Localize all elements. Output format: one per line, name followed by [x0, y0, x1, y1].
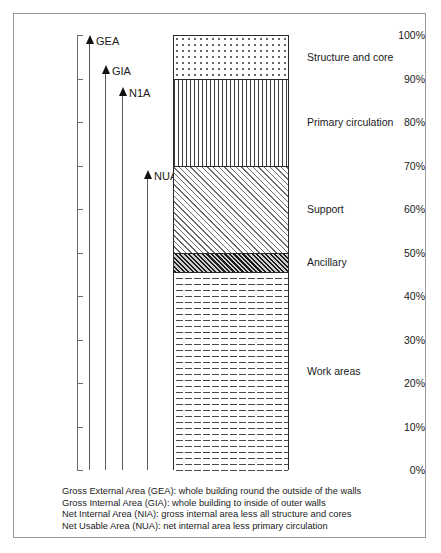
y-axis-tick: [77, 427, 83, 428]
y-axis-tick: [77, 470, 83, 471]
arrow-head-nua: [144, 170, 152, 179]
arrow-label-gia: GIA: [112, 66, 131, 77]
arrow-head-gia: [102, 65, 110, 74]
y-axis-tick-label: 70%: [369, 161, 425, 172]
y-axis-tick: [77, 253, 83, 254]
y-axis-tick-label: 100%: [369, 30, 425, 41]
legend-label-ancillary: Ancillary: [307, 257, 347, 268]
y-axis-tick: [77, 340, 83, 341]
y-axis-tick: [77, 79, 83, 80]
caption-line: Net Usable Area (NUA): net internal area…: [62, 521, 412, 533]
y-axis-tick-label: 30%: [369, 335, 425, 346]
legend-label-structure-and-core: Structure and core: [307, 52, 393, 63]
y-axis-tick-label: 10%: [369, 422, 425, 433]
arrow-shaft-nia: [122, 91, 123, 470]
bar-segment: [174, 273, 288, 471]
y-axis-tick: [77, 209, 83, 210]
y-axis-tick-label: 20%: [369, 378, 425, 389]
y-axis-tick-label: 60%: [369, 204, 425, 215]
legend-label-work-areas: Work areas: [307, 366, 361, 377]
y-axis-tick: [77, 296, 83, 297]
caption-line: Net Internal Area (NIA): gross internal …: [62, 509, 412, 521]
bar-segment: [174, 254, 288, 274]
bar-segment: [174, 167, 288, 254]
y-axis-tick: [77, 383, 83, 384]
y-axis-tick-label: 40%: [369, 291, 425, 302]
y-axis-tick: [77, 122, 83, 123]
caption-line: Gross Internal Area (GIA): whole buildin…: [62, 498, 412, 510]
arrow-shaft-gia: [105, 69, 106, 470]
arrow-shaft-gea: [89, 39, 90, 470]
y-axis-tick-label: 50%: [369, 248, 425, 259]
stacked-bar: [173, 35, 289, 470]
legend-label-primary-circulation: Primary circulation: [307, 117, 393, 128]
figure-frame: 100%90%80%70%60%50%40%30%20%10%0% GEAGIA…: [13, 13, 426, 538]
caption-line: Gross External Area (GEA): whole buildin…: [62, 486, 412, 498]
arrow-shaft-nua: [147, 174, 148, 470]
chart-plot-area: 100%90%80%70%60%50%40%30%20%10%0% GEAGIA…: [14, 14, 425, 537]
y-axis-tick: [77, 166, 83, 167]
y-axis-tick-label: 90%: [369, 74, 425, 85]
y-axis-tick-label: 0%: [369, 465, 425, 476]
y-axis-tick: [77, 35, 83, 36]
bar-segment: [174, 80, 288, 167]
bar-segment: [174, 36, 288, 80]
arrow-label-gea: GEA: [96, 36, 119, 47]
figure-caption: Gross External Area (GEA): whole buildin…: [62, 486, 412, 532]
arrow-head-gea: [86, 35, 94, 44]
arrow-label-nia: N1A: [129, 88, 150, 99]
arrow-head-nia: [119, 87, 127, 96]
legend-label-support: Support: [307, 204, 344, 215]
